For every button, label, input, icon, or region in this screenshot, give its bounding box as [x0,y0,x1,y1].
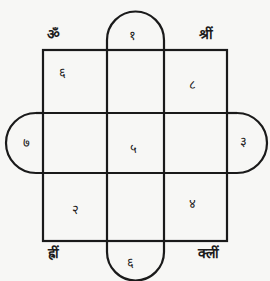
cell-r1c3: ८ [189,78,196,91]
tab-top-number: १ [129,29,136,42]
cell-r3c3: ४ [189,197,196,210]
top-tab-outline [107,12,164,51]
cell-r3c1: २ [72,203,79,216]
mantra-bottom-right: क्लीं [198,246,219,260]
tab-bottom-number: ६ [127,256,134,269]
cell-r2c2: ५ [130,142,137,155]
mantra-top-left: ॐ [47,27,60,41]
tab-left-number: ७ [23,136,30,149]
mantra-bottom-left: ह्रीं [48,246,59,260]
right-tab-outline [227,113,267,173]
tab-right-number: ३ [240,135,247,148]
bottom-tab-outline [107,241,164,281]
mantra-top-right: श्रीं [199,27,213,41]
cell-r1c1: ६ [59,66,66,79]
